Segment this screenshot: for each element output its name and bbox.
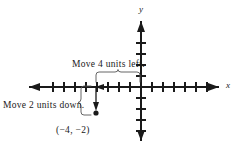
move-left-annotation: Move 4 units left. <box>72 59 145 69</box>
y-axis-arrow-down-icon <box>137 130 145 141</box>
y-axis-label: y <box>139 4 143 14</box>
point-coordinates-label: (−4, −2) <box>56 125 90 135</box>
vertical-move-arrowhead-icon <box>93 102 99 111</box>
move-down-annotation: Move 2 units down. <box>3 100 84 110</box>
axis-arrowheads <box>29 21 219 141</box>
horizontal-move-brace <box>96 70 140 83</box>
x-axis-label: x <box>226 80 230 90</box>
x-axis-arrow-left-icon <box>29 83 40 91</box>
coordinate-axes-svg <box>0 0 239 152</box>
plotted-point-marker <box>93 110 98 115</box>
coordinate-plane-figure: y x Move 4 units left. Move 2 units down… <box>0 0 239 152</box>
y-axis-arrow-up-icon <box>137 21 145 32</box>
horizontal-move-arrow <box>95 84 140 90</box>
x-axis-arrow-right-icon <box>208 83 219 91</box>
vertical-move-arrow <box>93 88 99 111</box>
